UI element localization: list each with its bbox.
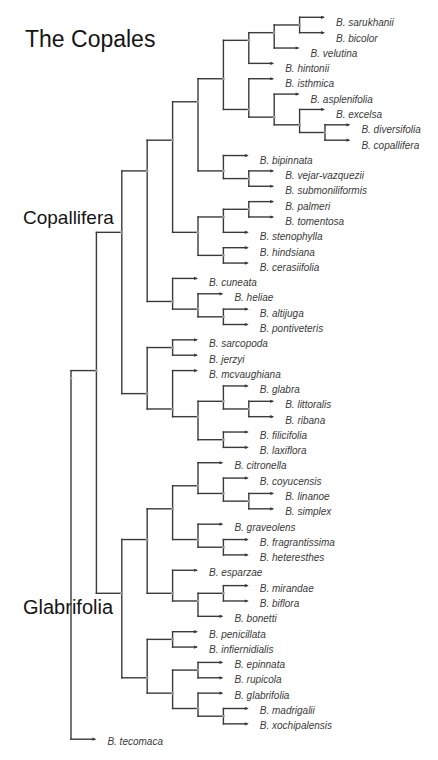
taxon-label: B. jerzyi <box>209 354 245 365</box>
taxon-label: B. hintonii <box>285 63 330 74</box>
branch-tip-arrow-icon <box>245 231 249 234</box>
taxon-label: B. hindsiana <box>260 247 315 258</box>
node-dot <box>146 676 149 679</box>
node-dot <box>197 415 200 418</box>
taxon-label: B. excelsa <box>336 109 383 120</box>
node-dot <box>197 484 200 487</box>
taxon-label: B. epinnata <box>234 659 285 670</box>
branch-tip-arrow-icon <box>346 123 350 126</box>
node-dot <box>171 638 174 641</box>
phylogenetic-tree: The Copales Copallifera Glabrifolia B. s… <box>0 0 438 760</box>
node-dot <box>171 508 174 511</box>
taxon-label: B. tomentosa <box>285 216 344 227</box>
branch-tip-arrow-icon <box>245 584 249 587</box>
node-dot <box>298 24 301 27</box>
taxon-label: B. glabra <box>260 384 300 395</box>
node-dot <box>248 408 251 411</box>
branch-tip-arrow-icon <box>270 200 274 203</box>
node-dot <box>171 408 174 411</box>
node-dot <box>273 116 276 119</box>
taxon-label: B. tecomaca <box>107 736 163 747</box>
branch-tip-arrow-icon <box>219 692 223 695</box>
node-dot <box>222 316 225 319</box>
branch-tip-arrow-icon <box>270 185 274 188</box>
taxon-label: B. xochipalensis <box>260 720 332 731</box>
taxon-label: B. simplex <box>285 506 332 517</box>
taxon-label: B. biflora <box>260 598 300 609</box>
node-dot <box>222 438 225 441</box>
branch-tip-arrow-icon <box>245 553 249 556</box>
branch-tip-arrow-icon <box>219 461 223 464</box>
taxon-label: B. cerasiifolia <box>260 262 320 273</box>
branch-tip-arrow-icon <box>194 338 198 341</box>
node-dot <box>197 600 200 603</box>
branch-tip-arrow-icon <box>245 722 249 725</box>
branch-tip-arrow-icon <box>270 77 274 80</box>
branch-tip-arrow-icon <box>296 93 300 96</box>
taxon-labels: B. sarukhaniiB. bicolorB. velutinaB. hin… <box>107 17 421 746</box>
branch-tip-arrow-icon <box>321 16 325 19</box>
taxon-label: B. bicolor <box>336 33 378 44</box>
taxon-label: B. madrigalii <box>260 705 316 716</box>
node-dot <box>95 369 98 372</box>
taxon-label: B. velutina <box>311 48 358 59</box>
branch-tip-arrow-icon <box>194 645 198 648</box>
branch-tip-arrow-icon <box>219 676 223 679</box>
node-dot <box>171 346 174 349</box>
branch-tip-arrow-icon <box>270 400 274 403</box>
branch-tip-arrow-icon <box>245 384 249 387</box>
node-dot <box>248 39 251 42</box>
branch-tip-arrow-icon <box>92 738 96 741</box>
branch-tip-arrow-icon <box>245 323 249 326</box>
taxon-label: B. copallifera <box>361 140 419 151</box>
taxon-label: B. diversifolia <box>361 124 421 135</box>
taxon-label: B. littoralis <box>285 399 331 410</box>
node-dot <box>146 538 149 541</box>
taxon-label: B. coyucensis <box>260 476 322 487</box>
taxon-label: B. pontiveteris <box>260 323 323 334</box>
node-dot <box>146 170 149 173</box>
taxon-label: B. graveolens <box>234 522 295 533</box>
branch-tip-arrow-icon <box>270 507 274 510</box>
node-dot <box>70 377 73 380</box>
node-dot <box>222 77 225 80</box>
taxon-label: B. heliae <box>234 292 273 303</box>
branch-tip-arrow-icon <box>194 369 198 372</box>
taxon-label: B. mirandae <box>260 583 314 594</box>
node-dot <box>146 392 149 395</box>
node-dot <box>171 300 174 303</box>
node-dot <box>197 538 200 541</box>
node-dot <box>222 254 225 257</box>
branch-tip-arrow-icon <box>270 492 274 495</box>
node-dot <box>222 492 225 495</box>
branch-tip-arrow-icon <box>270 169 274 172</box>
taxon-label: B. isthmica <box>285 78 334 89</box>
node-dot <box>171 692 174 695</box>
node-dot <box>324 131 327 134</box>
taxon-label: B. bipinnata <box>260 155 313 166</box>
taxon-label: B. rupicola <box>234 674 282 685</box>
taxon-label: B. ribana <box>285 415 325 426</box>
branch-tip-arrow-icon <box>245 246 249 249</box>
branch-tip-arrow-icon <box>270 415 274 418</box>
node-dot <box>121 592 124 595</box>
taxon-label: B. esparzae <box>209 567 263 578</box>
node-dot <box>222 546 225 549</box>
branch-tip-arrow-icon <box>219 523 223 526</box>
branch-tip-arrow-icon <box>245 599 249 602</box>
branch-tip-arrow-icon <box>245 308 249 311</box>
taxon-label: B. altijuga <box>260 308 304 319</box>
branch-tip-arrow-icon <box>194 277 198 280</box>
taxon-label: B. filicifolia <box>260 430 308 441</box>
node-dot <box>171 139 174 142</box>
node-dot <box>248 500 251 503</box>
branch-tip-arrow-icon <box>245 538 249 541</box>
taxon-label: B. glabrifolia <box>234 690 289 701</box>
branch-tip-arrow-icon <box>321 31 325 34</box>
clade-label-glabrifolia: Glabrifolia <box>23 596 114 618</box>
taxon-label: B. mcvaughiana <box>209 369 281 380</box>
node-dot <box>121 231 124 234</box>
node-dot <box>197 308 200 311</box>
node-dot <box>171 592 174 595</box>
branch-tip-arrow-icon <box>346 139 350 142</box>
